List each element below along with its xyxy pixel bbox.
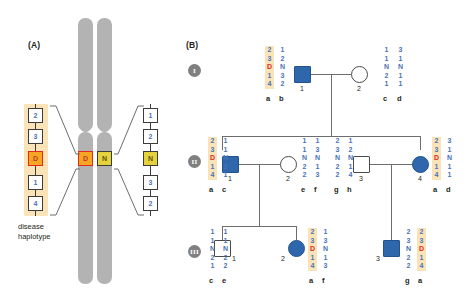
- allele: 1: [420, 254, 424, 263]
- pedigree-symbol-ii-4[interactable]: [412, 156, 429, 173]
- allele-disease: D: [434, 154, 439, 163]
- allele-disease: D: [310, 245, 315, 254]
- allele: 2: [385, 72, 389, 81]
- haplotype-col-i-1-a: 2 3 D 1 4: [265, 46, 274, 89]
- allele: 3: [316, 171, 320, 180]
- allele-normal: N: [223, 245, 228, 254]
- allele: 4: [420, 262, 424, 271]
- allele-normal: N: [280, 63, 285, 72]
- allele: 4: [435, 171, 439, 180]
- allele: 1: [448, 163, 452, 172]
- haplotype-col-iii-3-a: 2 3 D 1 4: [417, 228, 426, 271]
- pedigree-id-i-2: 2: [357, 85, 361, 92]
- haplotype-label-iii-2-a: a: [309, 276, 313, 285]
- panel-a-label: (A): [28, 40, 40, 50]
- figure-root: (A) D N 2 3 D 1 4 1 2 N 3 2: [0, 0, 466, 305]
- allele: 2: [303, 171, 307, 180]
- haplotype-col-iii-2-a: 2 3 D 1 4: [308, 228, 317, 271]
- chromatid-right-upper: [97, 18, 112, 131]
- pedigree-id-ii-2: 2: [286, 175, 290, 182]
- chromosome-locus-d-box: D: [78, 151, 93, 166]
- leader-bracket-right-upper: [114, 104, 146, 159]
- haplotype-col-iii-2-f: 1 3 N 1 3: [321, 228, 330, 271]
- panel-a-left-marker-4: 4: [28, 196, 43, 211]
- disease-haplotype-caption-line2: haplotype: [18, 232, 51, 242]
- allele: 3: [399, 46, 403, 55]
- pedigree-id-ii-3: 3: [359, 175, 363, 182]
- haplotype-label-iii-1-c: c: [209, 276, 213, 285]
- allele: 3: [268, 55, 272, 64]
- allele: 3: [420, 237, 424, 246]
- pedigree-symbol-i-1[interactable]: [294, 66, 311, 83]
- allele: 3: [324, 262, 328, 271]
- allele: 1: [385, 55, 389, 64]
- allele: 1: [399, 72, 403, 81]
- generation-badge-ii: II: [188, 155, 201, 168]
- allele: 1: [211, 262, 215, 271]
- allele: 4: [211, 171, 215, 180]
- allele: 1: [311, 254, 315, 263]
- allele: 1: [385, 46, 389, 55]
- allele: 1: [316, 163, 320, 172]
- haplotype-col-ii-1-c: 1 1 N 2 1: [221, 137, 230, 180]
- pedigree-symbol-i-2[interactable]: [351, 66, 368, 83]
- haplotype-label-ii-4-a: a: [433, 185, 437, 194]
- pedigree-symbol-ii-2[interactable]: [280, 156, 297, 173]
- haplotype-label-i-1-a: a: [266, 94, 270, 103]
- centromere-left: [80, 121, 91, 132]
- allele-normal: N: [447, 154, 452, 163]
- chromosome-locus-n-box: N: [97, 151, 112, 166]
- leader-bracket-right-lower: [114, 167, 146, 219]
- allele-disease: D: [210, 154, 215, 163]
- allele: 2: [281, 80, 285, 89]
- allele: 2: [281, 55, 285, 64]
- sibship-stub-ii4: [420, 136, 421, 150]
- leader-bracket-left-lower: [48, 167, 80, 219]
- haplotype-col-iii-3-g: 2 3 N 2 2: [404, 228, 413, 271]
- allele: 1: [303, 146, 307, 155]
- allele: 3: [281, 72, 285, 81]
- haplotype-col-iii-1-c: 1 1 N 2 1: [208, 228, 217, 271]
- allele: 1: [316, 137, 320, 146]
- pedigree-id-iii-3: 3: [376, 255, 380, 262]
- allele: 1: [224, 237, 228, 246]
- allele: 2: [224, 262, 228, 271]
- pedigree-symbol-iii-3[interactable]: [383, 240, 400, 257]
- allele: 4: [349, 171, 353, 180]
- allele: 1: [268, 72, 272, 81]
- allele: 2: [336, 163, 340, 172]
- pedigree-symbol-ii-3[interactable]: [353, 156, 370, 173]
- panel-b-label: (B): [186, 40, 198, 50]
- allele-normal: N: [315, 154, 320, 163]
- centromere-right: [99, 121, 110, 132]
- panel-a-left-marker-2-disease: D: [28, 151, 43, 166]
- haplotype-label-ii-2-f: f: [314, 185, 317, 194]
- allele: 3: [336, 146, 340, 155]
- haplotype-col-iii-1-e: 1 1 N 2 2: [221, 228, 230, 271]
- pedigree-id-ii-4: 4: [418, 175, 422, 182]
- allele-normal: N: [406, 245, 411, 254]
- haplotype-col-ii-4-a: 2 3 D 1 4: [432, 137, 441, 180]
- allele: 3: [448, 137, 452, 146]
- haplotype-label-ii-3-h: h: [347, 185, 352, 194]
- allele-normal: N: [323, 245, 328, 254]
- allele-normal: N: [348, 154, 353, 163]
- allele: 1: [224, 171, 228, 180]
- allele: 1: [303, 137, 307, 146]
- haplotype-label-iii-2-f: f: [322, 276, 325, 285]
- allele: 1: [448, 146, 452, 155]
- haplotype-col-ii-3-g: 2 3 N 2 2: [333, 137, 342, 180]
- sibship-stub-iii2: [296, 226, 297, 240]
- pedigree-symbol-iii-2[interactable]: [288, 240, 305, 257]
- allele: 1: [399, 55, 403, 64]
- allele-disease: D: [419, 245, 424, 254]
- haplotype-label-i-2-c: c: [383, 94, 387, 103]
- allele: 2: [435, 137, 439, 146]
- allele: 2: [336, 137, 340, 146]
- allele: 3: [211, 146, 215, 155]
- allele: 2: [407, 262, 411, 271]
- sibship-bar-gen3-left: [222, 226, 297, 227]
- allele: 1: [224, 137, 228, 146]
- allele: 1: [385, 80, 389, 89]
- haplotype-col-ii-4-d: 3 1 N 1 1: [445, 137, 454, 180]
